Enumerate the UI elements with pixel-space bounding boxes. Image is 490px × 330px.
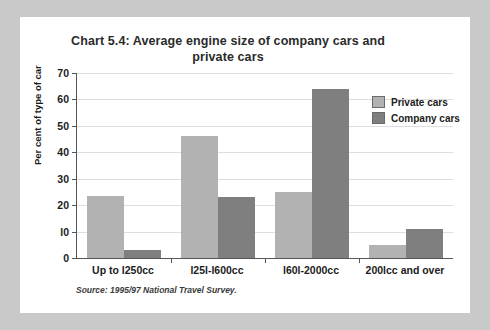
bar-company-cars <box>124 250 161 258</box>
bar-private-cars <box>87 196 124 258</box>
x-axis-tick <box>265 258 266 263</box>
gridline <box>77 232 453 233</box>
y-tick-mark <box>72 232 77 233</box>
chart-card: Chart 5.4: Average engine size of compan… <box>20 17 470 313</box>
bar-private-cars <box>181 136 218 258</box>
chart-title-line-1: Chart 5.4: Average engine size of compan… <box>58 33 398 49</box>
legend-swatch-company-cars <box>372 112 385 124</box>
y-tick-label: 30 <box>57 173 69 185</box>
y-tick-label: 20 <box>57 199 69 211</box>
x-axis-category-label: l25l-l600cc <box>170 264 264 276</box>
legend-swatch-private-cars <box>372 96 385 108</box>
gridline <box>77 205 453 206</box>
y-tick-label: l0 <box>60 226 69 238</box>
y-tick-mark <box>72 258 77 259</box>
gridline <box>77 179 453 180</box>
y-tick-label: 40 <box>57 146 69 158</box>
x-axis-tick <box>359 258 360 263</box>
y-tick-mark <box>72 205 77 206</box>
bar-private-cars <box>369 245 406 258</box>
y-tick-label: 50 <box>57 120 69 132</box>
legend-entry-company-cars: Company cars <box>372 112 460 124</box>
x-axis-tick <box>171 258 172 263</box>
bar-company-cars <box>406 229 443 258</box>
bar-private-cars <box>275 192 312 258</box>
x-axis-category-label: Up to l250cc <box>76 264 170 276</box>
y-tick-mark <box>72 126 77 127</box>
chart-figure: Chart 5.4: Average engine size of compan… <box>0 0 490 330</box>
chart-legend: Private cars Company cars <box>372 96 460 128</box>
y-axis-title: Per cent of type of car <box>32 65 43 165</box>
y-tick-mark <box>72 152 77 153</box>
bar-company-cars <box>218 197 255 258</box>
gridline <box>77 152 453 153</box>
chart-title-line-2: private cars <box>58 49 398 65</box>
y-tick-label: 60 <box>57 93 69 105</box>
x-axis-category-label: 200lcc and over <box>358 264 452 276</box>
y-tick-mark <box>72 179 77 180</box>
legend-label-private-cars: Private cars <box>391 97 448 108</box>
source-note: Source: 1995/97 National Travel Survey. <box>76 285 237 295</box>
legend-entry-private-cars: Private cars <box>372 96 460 108</box>
chart-title: Chart 5.4: Average engine size of compan… <box>58 33 398 65</box>
gridline <box>77 73 453 74</box>
y-tick-mark <box>72 73 77 74</box>
y-tick-mark <box>72 99 77 100</box>
bar-company-cars <box>312 89 349 258</box>
y-tick-label: 0 <box>63 252 69 264</box>
x-axis-category-label: l60l-2000cc <box>264 264 358 276</box>
legend-label-company-cars: Company cars <box>391 113 460 124</box>
y-tick-label: 70 <box>57 67 69 79</box>
